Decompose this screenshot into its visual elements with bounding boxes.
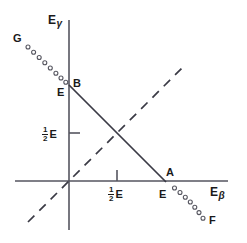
x-half-fraction: 1 2: [108, 186, 114, 204]
label-E-at-B: E: [57, 87, 64, 98]
x-half-symbol: E: [115, 188, 122, 200]
label-point-B: B: [73, 78, 81, 89]
physics-diagram: Eγ Eβ G F B E A E 1 2 E 1 2 E: [0, 0, 247, 243]
label-E-at-A: E: [159, 189, 166, 200]
x-axis-label-subscript: β: [219, 190, 225, 201]
y-axis-label-symbol: E: [48, 13, 56, 27]
label-F: F: [209, 215, 216, 226]
dotted-circles-F: [173, 186, 206, 220]
x-axis-half-E-label: 1 2 E: [108, 186, 123, 204]
y-axis-label-subscript: γ: [57, 18, 63, 29]
y-half-symbol: E: [49, 128, 56, 140]
x-axis-label: Eβ: [210, 186, 225, 201]
label-point-A: A: [166, 167, 174, 178]
y-half-denominator: 2: [42, 135, 48, 143]
x-half-denominator: 2: [108, 195, 114, 203]
y-half-fraction: 1 2: [42, 126, 48, 144]
solid-line-AB: [69, 85, 166, 182]
diagram-canvas: [0, 0, 247, 243]
y-axis-half-E-label: 1 2 E: [42, 126, 57, 144]
x-axis-label-symbol: E: [210, 185, 218, 199]
label-G: G: [13, 33, 22, 44]
dotted-circles-G: [26, 45, 68, 84]
y-axis-label: Eγ: [48, 14, 62, 29]
